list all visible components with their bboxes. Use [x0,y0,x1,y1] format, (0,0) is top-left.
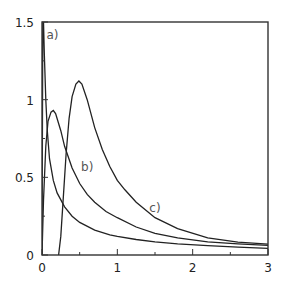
y-tick-label: 1.5 [15,16,34,30]
curve-a [42,22,268,255]
curve-label-c: c) [149,201,160,215]
x-tick-label: 0 [38,261,46,275]
y-axis-tick-labels: 00.511.5 [15,16,34,263]
curve-label-a: a) [47,28,59,42]
x-axis-tick-labels: 0123 [38,261,272,275]
x-tick-label: 2 [189,261,197,275]
y-tick-label: 1 [26,94,34,108]
curve-label-b: b) [81,160,93,174]
y-tick-label: 0.5 [15,171,34,185]
x-tick-label: 1 [114,261,122,275]
y-tick-label: 0 [26,249,34,263]
curve-b [42,111,268,256]
curves-group [42,22,268,255]
line-chart: 0123 00.511.5 a)b)c) [0,0,285,283]
x-tick-label: 3 [264,261,272,275]
